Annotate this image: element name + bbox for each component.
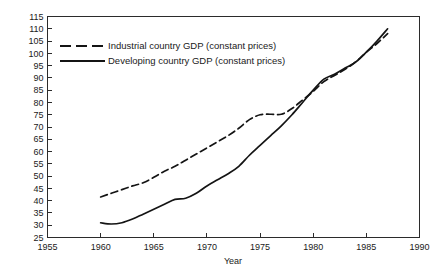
x-axis-tick-label: 1975: [250, 242, 270, 252]
y-axis-tick-label: 65: [33, 134, 43, 144]
line-chart: 2530354045505560657075808590951001051101…: [0, 0, 442, 271]
x-axis-tick-label: 1980: [303, 242, 323, 252]
y-axis-tick-label: 30: [33, 220, 43, 230]
y-axis: 2530354045505560657075808590951001051101…: [28, 12, 51, 243]
y-axis-tick-label: 45: [33, 184, 43, 194]
x-axis-tick-label: 1965: [144, 242, 164, 252]
x-axis: 19551960196519701975198019851990: [37, 233, 429, 252]
chart-figure: 2530354045505560657075808590951001051101…: [0, 0, 442, 271]
y-axis-tick-label: 95: [33, 61, 43, 71]
legend-label-developing: Developing country GDP (constant prices): [108, 55, 285, 66]
y-axis-tick-label: 40: [33, 196, 43, 206]
x-axis-tick-label: 1990: [409, 242, 429, 252]
y-axis-tick-label: 35: [33, 208, 43, 218]
y-axis-tick-label: 115: [29, 12, 43, 22]
x-axis-tick-label: 1970: [197, 242, 217, 252]
x-axis-title: Year: [224, 256, 242, 266]
y-axis-tick-label: 110: [29, 24, 43, 34]
y-axis-tick-label: 75: [33, 110, 43, 120]
x-axis-tick-label: 1955: [37, 242, 57, 252]
y-axis-tick-label: 100: [28, 49, 43, 59]
y-axis-tick-label: 80: [33, 98, 43, 108]
x-axis-tick-label: 1960: [91, 242, 111, 252]
y-axis-tick-label: 50: [33, 171, 43, 181]
y-axis-tick-label: 60: [33, 147, 43, 157]
y-axis-tick-label: 55: [33, 159, 43, 169]
chart-legend: Industrial country GDP (constant prices)…: [60, 40, 285, 66]
y-axis-tick-label: 85: [33, 85, 43, 95]
legend-label-industrial: Industrial country GDP (constant prices): [108, 40, 276, 51]
x-axis-tick-label: 1985: [356, 242, 376, 252]
y-axis-tick-label: 105: [28, 36, 43, 46]
y-axis-tick-label: 90: [33, 73, 43, 83]
y-axis-tick-label: 70: [33, 122, 43, 132]
